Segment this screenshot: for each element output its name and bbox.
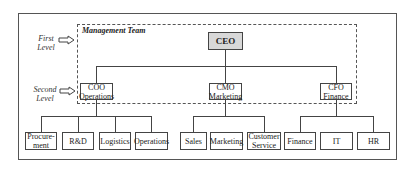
second-level-line1: Second: [30, 85, 60, 94]
connector: [96, 100, 97, 116]
cmo-title: CMO: [216, 83, 234, 92]
connector: [336, 66, 337, 83]
dept-label: Finance: [287, 137, 312, 146]
dept-label: R&D: [69, 137, 86, 146]
connector: [96, 66, 97, 83]
dept-operations: Operations: [135, 132, 168, 150]
coo-box: COO Operations: [80, 83, 113, 100]
dept-label: Customer: [248, 132, 279, 141]
dept-it: IT: [320, 132, 353, 150]
connector: [115, 116, 116, 132]
connector: [96, 66, 337, 67]
dept-rnd: R&D: [62, 132, 94, 150]
coo-title: COO: [88, 83, 105, 92]
dept-label: Sales: [185, 137, 202, 146]
dept-sales: Sales: [180, 132, 207, 150]
connector: [193, 116, 194, 132]
dept-finance: Finance: [284, 132, 316, 150]
second-level-label: Second Level: [30, 85, 60, 103]
dept-procurement: Procure- ment: [25, 132, 57, 150]
dept-hr: HR: [357, 132, 390, 150]
connector: [373, 116, 374, 132]
second-level-arrow-icon: [59, 86, 77, 96]
dept-logistics: Logistics: [99, 132, 131, 150]
dept-marketing: Marketing: [210, 132, 243, 150]
dept-label: Operations: [134, 137, 169, 146]
cfo-title: CFO: [328, 83, 344, 92]
second-level-line2: Level: [30, 94, 60, 103]
dept-customer-service: Customer Service: [247, 132, 281, 150]
connector: [41, 116, 152, 117]
dept-label: Logistics: [100, 137, 129, 146]
first-level-line1: First: [34, 34, 58, 43]
connector: [300, 116, 301, 132]
cmo-box: CMO Marketing: [209, 83, 242, 100]
dept-label: HR: [368, 137, 379, 146]
dept-label: IT: [333, 137, 341, 146]
first-level-label: First Level: [34, 34, 58, 52]
management-team-label: Management Team: [82, 26, 145, 35]
ceo-box: CEO: [208, 32, 243, 50]
connector: [225, 50, 226, 66]
dept-label: ment: [33, 141, 49, 150]
first-level-line2: Level: [34, 43, 58, 52]
connector: [193, 116, 265, 117]
connector: [336, 100, 337, 116]
ceo-label: CEO: [216, 37, 236, 46]
connector: [225, 100, 226, 116]
connector: [300, 116, 374, 117]
cfo-box: CFO Finance: [320, 83, 352, 100]
connector: [225, 66, 226, 83]
dept-label: Marketing: [210, 137, 243, 146]
connector: [41, 116, 42, 132]
dept-label: Service: [252, 141, 276, 150]
connector: [151, 116, 152, 132]
connector: [78, 116, 79, 132]
first-level-arrow-icon: [58, 35, 76, 45]
connector: [264, 116, 265, 132]
dept-label: Procure-: [27, 132, 55, 141]
